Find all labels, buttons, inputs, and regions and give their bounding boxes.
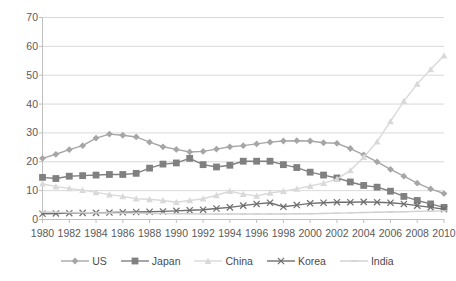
x-tick-label: 1996 — [245, 228, 268, 239]
legend-label: China — [225, 256, 252, 267]
x-tick-label: 2002 — [325, 228, 348, 239]
legend-label: Japan — [152, 256, 181, 267]
x-tick-label: 2004 — [352, 228, 375, 239]
legend-marker-x-icon — [266, 255, 296, 267]
data-point-marker — [72, 258, 79, 265]
legend-item-korea[interactable]: Korea — [266, 255, 326, 267]
legend-marker-square-icon — [120, 255, 150, 267]
legend-label: India — [371, 256, 394, 267]
x-tick-label: 2000 — [298, 228, 321, 239]
x-tick-label: 2006 — [379, 228, 402, 239]
x-tick-label: 1984 — [84, 228, 107, 239]
legend-item-india[interactable]: India — [339, 255, 394, 267]
legend-marker-diamond-icon — [60, 255, 90, 267]
legend-label: Korea — [298, 256, 326, 267]
legend-item-us[interactable]: US — [60, 255, 107, 267]
x-tick-label: 2010 — [432, 228, 455, 239]
x-tick-label: 1998 — [272, 228, 295, 239]
x-tick-label: 2008 — [406, 228, 429, 239]
legend-item-japan[interactable]: Japan — [120, 255, 181, 267]
x-tick-label: 1992 — [191, 228, 214, 239]
x-tick-label: 1986 — [111, 228, 134, 239]
chart-legend: USJapanChinaKoreaIndia — [0, 250, 454, 272]
data-point-marker — [131, 258, 138, 265]
legend-label: US — [92, 256, 107, 267]
x-tick-label: 1994 — [218, 228, 241, 239]
x-tick-label: 1990 — [165, 228, 188, 239]
x-tick-label: 1980 — [31, 228, 54, 239]
legend-marker-line-icon — [339, 255, 369, 267]
x-tick-label: 1988 — [138, 228, 161, 239]
legend-item-china[interactable]: China — [193, 255, 252, 267]
legend-marker-triangle-icon — [193, 255, 223, 267]
x-tick-label: 1982 — [58, 228, 81, 239]
